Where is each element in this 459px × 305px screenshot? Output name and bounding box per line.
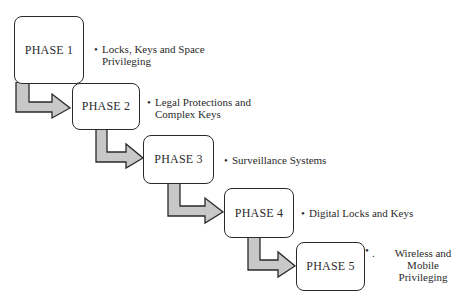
description-line: Wireless and [372,247,459,259]
description-line: Digital Locks and Keys [301,207,413,219]
bullet-dot-icon: • [365,244,369,256]
description-line: Privileging [94,55,205,67]
phase-3-label: PHASE 3 [154,152,202,167]
phase-3-description: • Surveillance Systems [224,154,326,166]
bullet-icon: • [224,154,228,166]
phase-1-box: PHASE 1 [14,16,84,84]
description-line: Legal Protections and [147,96,251,108]
bullet-icon: • [94,43,98,55]
elbow-arrow-1-2 [14,82,74,120]
phase-4-label: PHASE 4 [235,206,283,221]
elbow-arrow-4-5 [247,236,297,279]
phase-4-description: • Digital Locks and Keys [301,207,413,219]
bullet-icon: . [372,247,375,259]
phase-5-description: . Wireless and Mobile Privileging [372,247,459,283]
bullet-icon: • [301,207,305,219]
description-line: Locks, Keys and Space [94,43,205,55]
elbow-arrow-2-3 [95,128,145,170]
phase-2-description: • Legal Protections and Complex Keys [147,96,251,120]
phase-4-box: PHASE 4 [224,188,294,238]
phase-5-label: PHASE 5 [306,259,354,274]
phase-3-box: PHASE 3 [143,135,214,184]
description-line: Mobile [372,259,459,271]
description-line: Surveillance Systems [224,154,326,166]
description-line: Complex Keys [147,108,251,120]
phase-5-box: PHASE 5 [296,242,365,291]
elbow-arrow-3-4 [167,182,225,225]
phase-2-box: PHASE 2 [72,83,140,130]
phase-2-label: PHASE 2 [82,99,130,114]
phase-1-description: • Locks, Keys and Space Privileging [94,43,205,67]
bullet-icon: • [147,96,151,108]
phase-5-bullet-marker: • [365,244,369,256]
phase-1-label: PHASE 1 [25,43,73,58]
description-line: Privileging [372,271,459,283]
